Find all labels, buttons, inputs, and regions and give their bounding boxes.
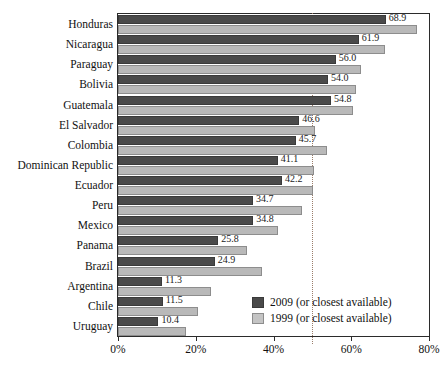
bar-row: 56.0 — [118, 54, 429, 74]
bar-2009 — [118, 257, 215, 266]
bar-value-label: 54.8 — [331, 93, 352, 105]
bar-row: 46.6 — [118, 115, 429, 135]
legend-swatch-icon — [252, 297, 264, 308]
legend-swatch-icon — [252, 313, 264, 324]
category-label: Peru — [0, 199, 113, 211]
bar-1999 — [118, 226, 278, 235]
bar-2009 — [118, 216, 253, 225]
x-axis-tick-label: 40% — [263, 343, 284, 355]
bar-value-label: 41.1 — [278, 153, 299, 165]
bar-value-label: 46.6 — [299, 113, 320, 125]
category-label: Nicaragua — [0, 38, 113, 50]
category-label: Paraguay — [0, 58, 113, 70]
bar-value-label: 10.4 — [158, 314, 179, 326]
bar-row: 11.3 — [118, 276, 429, 296]
category-label: Bolivia — [0, 78, 113, 90]
category-label: Guatemala — [0, 99, 113, 111]
bar-row: 45.7 — [118, 135, 429, 155]
legend-item: 2009 (or closest available) — [252, 296, 392, 309]
category-axis-labels: HondurasNicaraguaParaguayBoliviaGuatemal… — [0, 14, 113, 336]
bar-row: 54.8 — [118, 95, 429, 115]
category-label: Colombia — [0, 139, 113, 151]
x-axis-tick-labels: 0%20%40%60%80% — [0, 343, 448, 363]
x-axis-tick — [429, 337, 430, 341]
bar-value-label: 34.8 — [253, 213, 274, 225]
bar-value-label: 54.0 — [328, 72, 349, 84]
category-label: Argentina — [0, 280, 113, 292]
bar-row: 61.9 — [118, 34, 429, 54]
bar-row: 24.9 — [118, 256, 429, 276]
bar-2009 — [118, 15, 386, 24]
bar-row: 54.0 — [118, 74, 429, 94]
bar-rows: 68.961.956.054.054.846.645.741.142.234.7… — [118, 14, 429, 336]
x-axis-tick — [196, 337, 197, 341]
bar-2009 — [118, 96, 331, 105]
category-label: Brazil — [0, 260, 113, 272]
bar-2009 — [118, 35, 359, 44]
bar-value-label: 68.9 — [386, 12, 407, 24]
bar-2009 — [118, 236, 218, 245]
bar-row: 41.1 — [118, 155, 429, 175]
bar-2009 — [118, 136, 296, 145]
bar-1999 — [118, 327, 186, 336]
bar-row: 34.7 — [118, 195, 429, 215]
bar-2009 — [118, 55, 336, 64]
x-axis-tick-label: 60% — [341, 343, 362, 355]
bar-value-label: 34.7 — [253, 193, 274, 205]
category-label: Chile — [0, 300, 113, 312]
bar-2009 — [118, 156, 278, 165]
bar-row: 42.2 — [118, 175, 429, 195]
bar-1999 — [118, 186, 313, 195]
bar-row: 25.8 — [118, 235, 429, 255]
bar-row: 34.8 — [118, 215, 429, 235]
x-axis-tick-label: 80% — [418, 343, 439, 355]
x-axis-tick-label: 20% — [185, 343, 206, 355]
bar-2009 — [118, 116, 299, 125]
bar-1999 — [118, 206, 302, 215]
legend-item: 1999 (or closest available) — [252, 312, 392, 325]
bar-1999 — [118, 85, 356, 94]
bar-value-label: 61.9 — [359, 32, 380, 44]
category-label: El Salvador — [0, 119, 113, 131]
bar-1999 — [118, 267, 262, 276]
bar-row: 68.9 — [118, 14, 429, 34]
bar-value-label: 11.3 — [162, 274, 182, 286]
bar-2009 — [118, 196, 253, 205]
bar-2009 — [118, 277, 162, 286]
bar-chart: HondurasNicaraguaParaguayBoliviaGuatemal… — [0, 0, 448, 383]
category-label: Dominican Republic — [0, 159, 113, 171]
x-axis-tick — [274, 337, 275, 341]
bar-2009 — [118, 317, 158, 326]
chart-legend: 2009 (or closest available)1999 (or clos… — [252, 296, 392, 328]
bar-2009 — [118, 297, 163, 306]
bar-2009 — [118, 176, 282, 185]
category-label: Mexico — [0, 219, 113, 231]
legend-label: 1999 (or closest available) — [270, 312, 392, 325]
bar-value-label: 56.0 — [336, 52, 357, 64]
x-axis-tick — [118, 337, 119, 341]
legend-label: 2009 (or closest available) — [270, 296, 392, 309]
category-label: Panama — [0, 239, 113, 251]
category-label: Honduras — [0, 18, 113, 30]
bar-value-label: 24.9 — [215, 254, 236, 266]
bar-value-label: 25.8 — [218, 233, 239, 245]
category-label: Ecuador — [0, 179, 113, 191]
x-axis-tick — [351, 337, 352, 341]
bar-value-label: 45.7 — [296, 133, 317, 145]
x-axis-tick-label: 0% — [110, 343, 125, 355]
category-label: Uruguay — [0, 320, 113, 332]
bar-1999 — [118, 65, 361, 74]
bar-1999 — [118, 126, 315, 135]
bar-value-label: 11.5 — [163, 294, 183, 306]
bar-2009 — [118, 75, 328, 84]
bar-value-label: 42.2 — [282, 173, 303, 185]
